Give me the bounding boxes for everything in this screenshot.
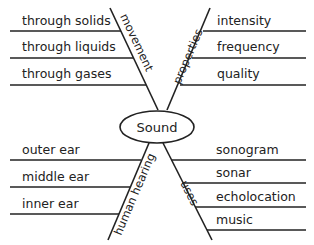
movement-item-1: through solids [22,13,111,28]
human-hearing-item-3: inner ear [22,196,79,211]
branch-movement: through solids through liquids through g… [10,8,158,110]
center-label: Sound [137,120,178,135]
uses-item-4: music [216,212,253,227]
movement-item-2: through liquids [22,39,116,54]
diagram-svg: through solids through liquids through g… [0,0,314,245]
uses-item-3: echolocation [216,189,296,204]
properties-item-2: frequency [217,39,280,54]
center-node: Sound [120,111,194,143]
movement-item-3: through gases [22,66,111,81]
branch-human-hearing: outer ear middle ear inner ear human hea… [10,142,158,240]
properties-branch-label: properties [170,27,206,86]
uses-item-1: sonogram [216,142,279,157]
uses-item-2: sonar [216,165,252,180]
human-hearing-item-1: outer ear [22,142,81,157]
branch-uses: sonogram sonar echolocation music uses [163,142,306,240]
branch-properties: intensity frequency quality properties [167,8,306,110]
properties-item-3: quality [217,66,260,81]
sound-web-diagram: through solids through liquids through g… [0,0,314,245]
human-hearing-item-2: middle ear [22,169,90,184]
properties-item-1: intensity [217,13,272,28]
human-hearing-branch-label: human hearing [111,151,158,237]
